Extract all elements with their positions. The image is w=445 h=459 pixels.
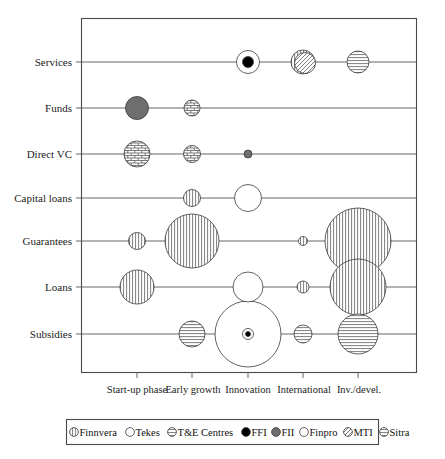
bubble-services-international-mti[interactable] bbox=[295, 53, 316, 74]
y-label-services: Services bbox=[35, 56, 72, 68]
y-label-direct-vc: Direct VC bbox=[27, 148, 72, 160]
legend-label-tekes: Tekes bbox=[136, 427, 160, 438]
chart-figure: Services Funds Direct VC Capital loans G… bbox=[0, 0, 445, 459]
bubble-subsidies-innovation-ffi[interactable] bbox=[246, 332, 251, 337]
legend-marker-finnvera-icon bbox=[70, 428, 79, 437]
bubble-matrix-chart: Services Funds Direct VC Capital loans G… bbox=[0, 0, 445, 459]
bubble-loans-start-up-phase-finnvera[interactable] bbox=[120, 270, 154, 304]
bubble-guarantees-start-up-phase-finnvera[interactable] bbox=[129, 233, 146, 250]
legend-item-finnvera[interactable]: Finnvera bbox=[70, 427, 118, 438]
legend-label-mti: MTI bbox=[354, 427, 374, 438]
bubble-direct-vc-start-up-phase-sitra[interactable] bbox=[124, 141, 150, 167]
x-label-innovation: Innovation bbox=[225, 384, 271, 395]
bubble-loans-inv-devel-finnvera[interactable] bbox=[330, 259, 386, 315]
y-axis-labels: Services Funds Direct VC Capital loans G… bbox=[14, 56, 72, 340]
legend-label-finnvera: Finnvera bbox=[80, 427, 118, 438]
bubble-funds-early-growth-sitra[interactable] bbox=[184, 100, 200, 116]
legend-item-mti[interactable]: MTI bbox=[344, 427, 374, 438]
bubble-direct-vc-early-growth-sitra[interactable] bbox=[184, 146, 201, 163]
legend-marker-tekes-icon bbox=[126, 428, 135, 437]
legend-item-tekes[interactable]: Tekes bbox=[126, 427, 160, 438]
bubble-guarantees-international-finnvera[interactable] bbox=[299, 237, 308, 246]
bubble-loans-innovation-tekes[interactable] bbox=[233, 272, 263, 302]
bubble-funds-start-up-phase-fii[interactable] bbox=[126, 97, 149, 120]
y-label-funds: Funds bbox=[45, 102, 72, 114]
bubble-capital-loans-early-growth-finnvera[interactable] bbox=[184, 190, 201, 207]
legend-marker-sitra-icon bbox=[380, 428, 389, 437]
bubble-subsidies-early-growth-t-e-centres[interactable] bbox=[179, 321, 205, 347]
legend-label-sitra: Sitra bbox=[390, 427, 410, 438]
bubble-subsidies-international-t-e-centres[interactable] bbox=[294, 325, 312, 343]
x-label-start-up-phase: Start-up phase bbox=[107, 384, 168, 395]
bubble-services-inv-devel-t-e-centres[interactable] bbox=[347, 51, 369, 73]
bubble-capital-loans-innovation-tekes[interactable] bbox=[235, 185, 262, 212]
legend-label-finpro: Finpro bbox=[310, 427, 338, 438]
bubble-direct-vc-innovation-fii[interactable] bbox=[244, 150, 252, 158]
x-axis-ticks bbox=[137, 373, 358, 379]
bubble-guarantees-early-growth-finnvera[interactable] bbox=[165, 214, 219, 268]
y-label-capital-loans: Capital loans bbox=[14, 192, 72, 204]
legend-marker-fii-icon bbox=[272, 428, 281, 437]
legend-item-ffi[interactable]: FFI bbox=[242, 427, 268, 438]
legend-marker-ffi-icon bbox=[242, 428, 251, 437]
x-axis-labels: Start-up phase Early growth Innovation I… bbox=[107, 384, 381, 395]
y-label-subsidies: Subsidies bbox=[30, 328, 72, 340]
legend-item-sitra[interactable]: Sitra bbox=[380, 427, 410, 438]
x-label-international: International bbox=[277, 384, 331, 395]
legend-item-t-e-centres[interactable]: T&E Centres bbox=[168, 427, 234, 438]
legend-label-ffi: FFI bbox=[252, 427, 268, 438]
bubble-services-innovation-ffi[interactable] bbox=[243, 57, 254, 68]
bubble-layer bbox=[120, 50, 391, 367]
legend-item-finpro[interactable]: Finpro bbox=[300, 427, 338, 438]
legend-item-fii[interactable]: FII bbox=[272, 427, 295, 438]
y-label-guarantees: Guarantees bbox=[23, 235, 72, 247]
bubble-loans-international-finnvera[interactable] bbox=[297, 281, 309, 293]
x-label-inv-devel: Inv./devel. bbox=[337, 384, 381, 395]
legend-marker-t-e-centres-icon bbox=[168, 428, 177, 437]
legend-items: FinnveraTekesT&E CentresFFIFIIFinproMTIS… bbox=[70, 427, 410, 438]
bubble-subsidies-inv-devel-t-e-centres[interactable] bbox=[338, 314, 378, 354]
legend-label-fii: FII bbox=[282, 427, 295, 438]
legend-label-t-e-centres: T&E Centres bbox=[178, 427, 234, 438]
x-label-early-growth: Early growth bbox=[165, 384, 221, 395]
y-axis-ticks bbox=[76, 62, 82, 334]
legend-marker-finpro-icon bbox=[300, 428, 309, 437]
y-label-loans: Loans bbox=[45, 281, 72, 293]
legend-marker-mti-icon bbox=[344, 428, 353, 437]
